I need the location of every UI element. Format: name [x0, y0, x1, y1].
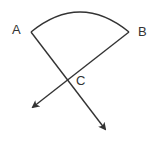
point-label-a: A — [12, 23, 21, 36]
ray-b-through-c — [33, 32, 129, 107]
arc-a-to-b — [31, 12, 129, 32]
point-label-b: B — [138, 25, 147, 38]
point-label-c: C — [76, 74, 85, 87]
sector-diagram — [0, 0, 154, 141]
